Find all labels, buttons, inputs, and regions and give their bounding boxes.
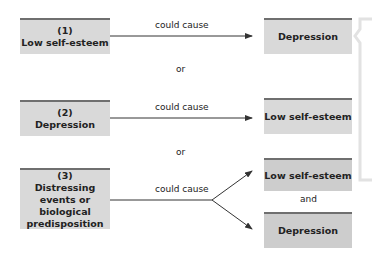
cause-number-1: (1) — [57, 25, 72, 37]
connector-label-2: could cause — [155, 102, 209, 112]
separator-or-1: or — [176, 64, 185, 74]
cause-number-3: (3) — [57, 170, 72, 182]
connector-label-3: could cause — [155, 184, 209, 194]
effect-box-1: Depression — [264, 18, 352, 54]
effect-label-3b: Depression — [278, 225, 338, 237]
effect-label-3a: Low self-esteem — [264, 170, 351, 182]
bracket-callout — [355, 19, 372, 180]
effect-box-2: Low self-esteem — [264, 98, 352, 134]
connector-label-1: could cause — [155, 20, 209, 30]
effect-box-3a: Low self-esteem — [264, 158, 352, 191]
effect-label-2: Low self-esteem — [264, 111, 351, 123]
cause-box-1: (1) Low self-esteem — [20, 18, 110, 54]
effects-joiner-and: and — [300, 194, 317, 204]
cause-label-1: Low self-esteem — [21, 37, 108, 49]
arrow-row3-down — [212, 200, 252, 229]
effect-box-3b: Depression — [264, 212, 352, 248]
arrow-row3-up — [212, 171, 252, 200]
cause-label-2: Depression — [35, 119, 95, 131]
cause-number-2: (2) — [57, 107, 72, 119]
cause-box-2: (2) Depression — [20, 100, 110, 136]
separator-or-2: or — [176, 147, 185, 157]
cause-box-3: (3) Distressing events or biological pre… — [20, 168, 110, 229]
cause-label-3: Distressing events or biological predisp… — [20, 182, 110, 230]
effect-label-1: Depression — [278, 31, 338, 43]
